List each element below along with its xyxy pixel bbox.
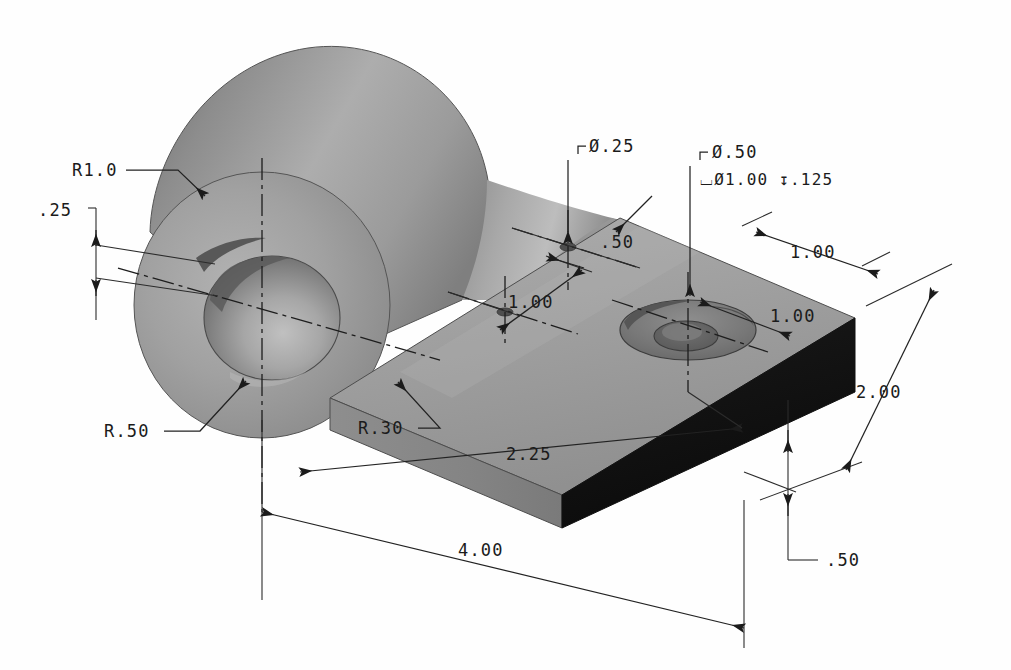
dim-edge-offset-top: 1.00 (742, 212, 890, 274)
dim-hole-spacing-100-text: 1.00 (508, 292, 554, 312)
dim-dia-50-text: Ø.50 (712, 142, 758, 162)
dim-plate-thickness-50-text: .50 (826, 550, 860, 570)
dim-edge-offset-side-text: 1.00 (770, 306, 816, 326)
drawing-sheet: R1.0 .25 R.50 R.30 Ø.25 Ø.50 ⌴Ø1.00 ↧.12… (0, 0, 1011, 670)
dim-r1-0-text: R1.0 (72, 160, 118, 180)
dim-edge-offset-top-text: 1.00 (790, 242, 836, 262)
dim-r-30-text: R.30 (358, 418, 404, 438)
isometric-part-drawing: R1.0 .25 R.50 R.30 Ø.25 Ø.50 ⌴Ø1.00 ↧.12… (0, 0, 1011, 670)
dim-plate-width-200-text: 2.00 (856, 382, 902, 402)
dim-r-50-text: R.50 (104, 421, 150, 441)
dim-hole-spacing-50-text: .50 (600, 232, 634, 252)
part-solid-model (134, 46, 855, 528)
dim-cbore-text: ⌴Ø1.00 ↧.125 (700, 170, 833, 189)
dim-225-text: 2.25 (506, 444, 552, 464)
dim-overall-400-text: 4.00 (458, 540, 504, 560)
dim-dia-25-text: Ø.25 (589, 136, 635, 156)
dim-thickness-25-text: .25 (38, 200, 72, 220)
